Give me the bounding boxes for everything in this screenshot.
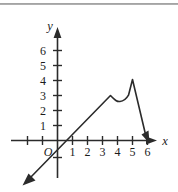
x-axis-label: x (161, 134, 168, 148)
figure-canvas: y x O 6 5 4 3 2 1 1 2 3 4 5 6 (0, 0, 178, 192)
x-tick-label-3: 3 (100, 145, 106, 159)
y-axis-arrowhead-icon (54, 27, 62, 38)
y-axis (53, 27, 62, 178)
y-tick-label-6: 6 (40, 44, 46, 58)
y-tick-label-4: 4 (40, 74, 46, 88)
y-tick-label-5: 5 (40, 59, 46, 73)
y-tick-label-2: 2 (40, 104, 46, 118)
curve-path (29, 80, 146, 180)
y-tick-label-3: 3 (40, 89, 46, 103)
x-tick-label-1: 1 (70, 145, 76, 159)
y-tick-label-1: 1 (40, 119, 46, 133)
x-tick-label-2: 2 (85, 145, 91, 159)
x-axis (11, 136, 157, 145)
coordinate-plot: y x O 6 5 4 3 2 1 1 2 3 4 5 6 (0, 0, 178, 192)
x-tick-label-4: 4 (115, 145, 121, 159)
y-axis-label: y (45, 19, 53, 33)
curve-end-arrowhead-icon (142, 131, 150, 144)
x-tick-label-5: 5 (130, 145, 136, 159)
origin-label: O (44, 145, 53, 159)
x-tick-label-6: 6 (145, 145, 151, 159)
